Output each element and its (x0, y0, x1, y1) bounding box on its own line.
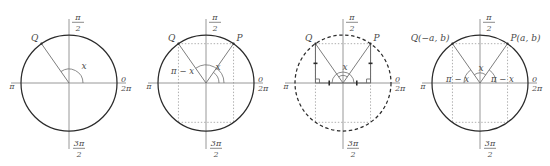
axes (11, 19, 126, 149)
unit-circle-figure-row: π23π2π02πQxπ23π2π02πQPπ − xxπ23π2π02πQPx… (0, 0, 550, 166)
point-p-coordinates: P(a, b) (510, 33, 541, 43)
axis-label-top: π2 (72, 13, 84, 34)
point-q-coordinates: Q(−a, b) (411, 33, 450, 43)
angle-label-pi-minus-x: π − x (170, 66, 194, 76)
right-angle-mark-p (367, 79, 371, 83)
angle-label-x: x (478, 63, 483, 73)
point-labels: Q (31, 33, 39, 43)
angle-label-x: x (81, 61, 86, 71)
axis-label-top-denominator: 2 (348, 24, 354, 33)
radii (40, 43, 69, 83)
axis-label-top-numerator: π (485, 13, 492, 22)
axis-label-top: π2 (346, 13, 358, 34)
point-p: P (373, 33, 381, 43)
axis-label-right-two-pi: 2π (257, 84, 269, 93)
angle-label-pi-minus-x-left: π − x (445, 74, 469, 84)
axis-label-bottom-numerator: 3π (348, 139, 359, 148)
axis-label-bottom: 3π2 (73, 139, 85, 160)
axis-label-right: 02π (394, 75, 406, 93)
panel-1-canvas: π23π2π02πQx (0, 0, 137, 166)
panel-2-canvas: π23π2π02πQPπ − xx (137, 0, 274, 166)
axis-label-top: π2 (483, 13, 495, 34)
point-q: Q (305, 33, 313, 43)
angle-text-labels: x (342, 62, 347, 72)
axes (148, 19, 263, 149)
point-marker-p (232, 43, 234, 45)
point-marker-q (40, 43, 42, 45)
coordinates-p-a-b-and-q-minus-a-b: π23π2π02πQ(−a, b)P(a, b)π − xxπ − x (411, 0, 548, 166)
axis-label-bottom-denominator: 2 (212, 150, 218, 159)
rectangle-with-angles-x-and-pi-minus-x: π23π2π02πQPπ − xx (137, 0, 274, 166)
axis-label-right: 02π (531, 75, 543, 93)
axis-label-top: π2 (209, 13, 221, 34)
axis-label-right-two-pi: 2π (531, 84, 543, 93)
axis-label-bottom: 3π2 (347, 139, 359, 160)
axis-label-bottom-denominator: 2 (486, 150, 492, 159)
panel-3-canvas: π23π2π02πQPx (274, 0, 411, 166)
axis-label-bottom-denominator: 2 (349, 150, 355, 159)
axis-label-right-two-pi: 2π (120, 84, 132, 93)
axis-label-right-two-pi: 2π (394, 84, 406, 93)
axis-label-right: 02π (257, 75, 269, 93)
angle-label-x: x (215, 62, 220, 72)
point-marker-q (451, 43, 453, 45)
point-marker-q (314, 43, 316, 45)
arc-x (213, 72, 219, 83)
axis-label-top-denominator: 2 (485, 24, 491, 33)
angle-label-x: x (342, 62, 347, 72)
axes (285, 19, 400, 149)
axis-label-top-numerator: π (348, 13, 355, 22)
axis-label-bottom: 3π2 (210, 139, 222, 160)
axis-label-bottom-denominator: 2 (75, 150, 81, 159)
single-radius-angle-x: π23π2π02πQx (0, 0, 137, 166)
axis-label-bottom-numerator: 3π (211, 139, 222, 148)
point-marker-q (177, 43, 179, 45)
axis-label-right: 02π (120, 75, 132, 93)
radius-to-q (315, 44, 343, 83)
point-labels: Q(−a, b)P(a, b) (411, 33, 541, 43)
angle-text-labels: π − xx (170, 62, 220, 76)
point-p: P (236, 33, 244, 43)
axis-label-bottom: 3π2 (484, 139, 496, 160)
axis-label-bottom-numerator: 3π (74, 139, 85, 148)
axis-label-top-numerator: π (74, 13, 81, 22)
axis-label-bottom-numerator: 3π (485, 139, 496, 148)
axis-label-top-denominator: 2 (211, 24, 217, 33)
radius-to-q (178, 44, 206, 83)
point-marker-p (369, 43, 371, 45)
point-marker-p (506, 43, 508, 45)
congruent-right-triangles: π23π2π02πQPx (274, 0, 411, 166)
axis-label-top-numerator: π (211, 13, 218, 22)
angle-label-pi-minus-x-right: π − x (490, 74, 514, 84)
right-angle-mark-q (315, 79, 319, 83)
angle-text-labels: x (81, 61, 86, 71)
panel-4-canvas: π23π2π02πQ(−a, b)P(a, b)π − xxπ − x (411, 0, 548, 166)
radius-to-q (41, 44, 69, 83)
axis-labels: π23π2π02π (283, 13, 407, 160)
point-q: Q (168, 33, 176, 43)
point-q: Q (31, 33, 39, 43)
axis-label-top-denominator: 2 (74, 24, 80, 33)
